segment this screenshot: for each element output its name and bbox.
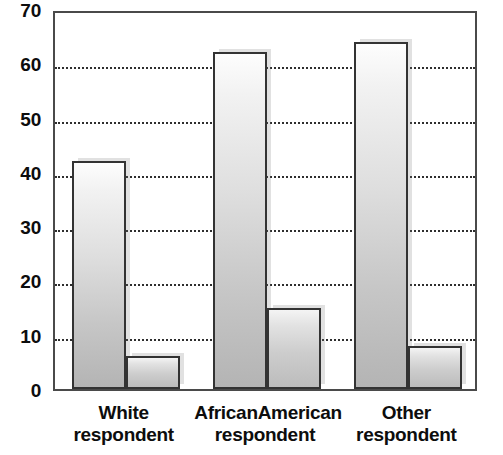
bars-layer (55, 13, 475, 389)
x-axis: WhiterespondentAfricanAmericanrespondent… (53, 402, 477, 455)
y-tick-label: 40 (0, 164, 41, 183)
bar-group (213, 13, 321, 389)
bar[interactable] (354, 42, 408, 389)
bar[interactable] (213, 52, 267, 389)
x-category-label-line: White (53, 402, 194, 424)
x-category-label-line: respondent (336, 424, 477, 446)
plot-area (53, 11, 477, 391)
y-tick-label: 30 (0, 218, 41, 237)
x-category-label: Otherrespondent (336, 402, 477, 446)
x-category-label-line: respondent (194, 424, 335, 446)
y-tick-label: 20 (0, 272, 41, 291)
bar[interactable] (408, 346, 462, 389)
x-category-label-line: Other (336, 402, 477, 424)
y-tick-label: 50 (0, 110, 41, 129)
bar[interactable] (72, 161, 126, 389)
bar-group (72, 13, 180, 389)
y-tick-label: 10 (0, 327, 41, 346)
y-tick-label: 70 (0, 1, 41, 20)
bar[interactable] (126, 356, 180, 389)
y-tick-label: 0 (0, 381, 41, 400)
x-category-label-line: AfricanAmerican (194, 402, 335, 424)
bar-chart: 706050403020100 WhiterespondentAfricanAm… (0, 0, 503, 455)
y-axis: 706050403020100 (0, 0, 47, 455)
y-tick-label: 60 (0, 55, 41, 74)
bar[interactable] (267, 308, 321, 389)
x-category-label: Whiterespondent (53, 402, 194, 446)
bar-group (354, 13, 462, 389)
x-category-label-line: respondent (53, 424, 194, 446)
x-category-label: AfricanAmericanrespondent (194, 402, 335, 446)
